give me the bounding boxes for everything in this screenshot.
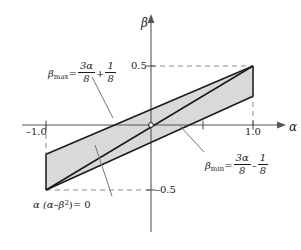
beta-min-const-fraction: 18 [258, 152, 268, 176]
beta-min-const-denominator: 8 [258, 165, 268, 177]
beta-max-const-fraction: 18 [105, 60, 115, 84]
beta-min-slope-denominator: 8 [234, 165, 251, 177]
beta-min-equals: = [224, 160, 232, 171]
beta-max-plus: + [96, 68, 104, 79]
beta-min-minus: – [252, 160, 257, 171]
x-axis-label: α [289, 121, 297, 133]
beta-min-const-numerator: 1 [258, 152, 268, 165]
y-tick-label-neg-half: –0.5 [155, 185, 176, 195]
leader-beta-min [180, 126, 204, 152]
y-axis-arrowhead [148, 14, 155, 23]
y-tick-label-half: 0.5 [131, 61, 147, 71]
beta-min-slope-fraction: 3α8 [234, 152, 251, 176]
y-axis-label: β [141, 17, 148, 29]
x-axis-arrowhead [277, 122, 286, 129]
beta-max-equals: = [69, 68, 77, 79]
x-tick-label-one: 1.0 [245, 127, 261, 137]
beta-min-subscript: min [211, 165, 224, 173]
curve-eq-equals-zero: = 0 [73, 199, 91, 210]
x-tick-label-neg-one: –1.0 [26, 127, 47, 137]
origin-marker [149, 123, 154, 128]
beta-min-annotation: βmin=3α8–18 [205, 152, 269, 176]
beta-max-subscript: max [54, 73, 69, 81]
plot-svg [0, 0, 301, 250]
beta-max-const-denominator: 8 [105, 73, 115, 85]
beta-max-const-numerator: 1 [105, 60, 115, 73]
beta-max-slope-fraction: 3α8 [78, 60, 95, 84]
curve-equation-annotation: α (α–β2)= 0 [33, 200, 91, 210]
beta-max-slope-denominator: 8 [78, 73, 95, 85]
beta-max-annotation: βmax=3α8+18 [48, 60, 117, 84]
beta-min-slope-numerator: 3α [234, 152, 251, 165]
figure-canvas: β α –1.0 1.0 0.5 –0.5 βmax=3α8+18 βmin=3… [0, 0, 301, 250]
curve-eq-lead: α (α [33, 199, 54, 210]
beta-max-slope-numerator: 3α [78, 60, 95, 73]
